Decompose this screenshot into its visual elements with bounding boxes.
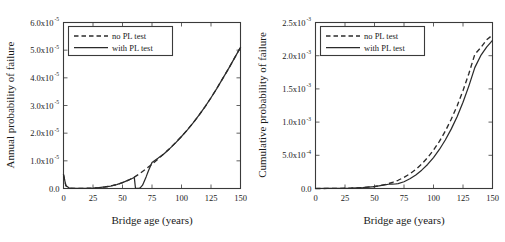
l-ytick-label: 3.0x10-5 xyxy=(30,99,59,111)
svg-text:-5: -5 xyxy=(55,16,60,22)
chart-panel-left: 0.01.0x10-52.0x10-53.0x10-54.0x10-55.0x1… xyxy=(0,0,252,242)
r-xtick-label: 100 xyxy=(427,193,440,203)
svg-text:-4: -4 xyxy=(307,149,312,155)
l-ytick-label: 1.0x10-5 xyxy=(30,154,59,166)
r-xtick-label: 150 xyxy=(486,193,499,203)
svg-text:-5: -5 xyxy=(55,127,60,133)
left-ytick-labels: 0.01.0x10-52.0x10-53.0x10-54.0x10-55.0x1… xyxy=(30,16,59,194)
l-xtick-label: 0 xyxy=(61,193,65,203)
svg-text:0.0: 0.0 xyxy=(301,184,312,194)
svg-text:-3: -3 xyxy=(307,16,312,22)
svg-text:3.0x10: 3.0x10 xyxy=(30,101,53,111)
svg-text:5.0x10: 5.0x10 xyxy=(282,150,305,160)
svg-text:1.5x10: 1.5x10 xyxy=(282,84,305,94)
l-ytick-label: 6.0x10-5 xyxy=(30,16,59,28)
svg-text:2.0x10: 2.0x10 xyxy=(30,128,53,138)
r-ytick-label: 2.0x10-3 xyxy=(282,49,311,61)
l-xtick-label: 100 xyxy=(175,193,188,203)
left-x-axis-title: Bridge age (years) xyxy=(111,214,193,227)
r-xtick-label: 0 xyxy=(313,193,317,203)
svg-text:4.0x10: 4.0x10 xyxy=(30,73,53,83)
figure-container: 0.01.0x10-52.0x10-53.0x10-54.0x10-55.0x1… xyxy=(0,0,505,242)
l-xtick-label: 25 xyxy=(89,193,98,203)
svg-text:0.0: 0.0 xyxy=(49,184,60,194)
left-xtick-labels: 0255075100125150 xyxy=(61,193,247,203)
right-y-axis-title: Cumulative probability of failure xyxy=(256,32,268,178)
l-ytick-label: 2.0x10-5 xyxy=(30,127,59,139)
right-ytick-labels: 0.05.0x10-41.0x10-31.5x10-32.0x10-32.5x1… xyxy=(282,16,311,194)
l-xtick-label: 50 xyxy=(118,193,127,203)
svg-text:1.0x10: 1.0x10 xyxy=(282,117,305,127)
svg-text:2.0x10: 2.0x10 xyxy=(282,51,305,61)
r-ytick-label: 1.5x10-3 xyxy=(282,82,311,94)
right-xtick-labels: 0255075100125150 xyxy=(313,193,499,203)
svg-text:-5: -5 xyxy=(55,99,60,105)
l-xtick-label: 150 xyxy=(234,193,247,203)
svg-text:-5: -5 xyxy=(55,71,60,77)
svg-text:-3: -3 xyxy=(307,82,312,88)
l-xtick-label: 75 xyxy=(148,193,157,203)
l-ytick-label: 0.0 xyxy=(49,184,60,194)
chart-panel-right: 0.05.0x10-41.0x10-31.5x10-32.0x10-32.5x1… xyxy=(252,0,504,242)
svg-text:6.0x10: 6.0x10 xyxy=(30,18,53,28)
right-x-axis-title: Bridge age (years) xyxy=(363,214,445,227)
l-xtick-label: 125 xyxy=(205,193,218,203)
left-legend-label-no-pl-test: no PL test xyxy=(112,31,147,41)
r-ytick-label: 1.0x10-3 xyxy=(282,116,311,128)
left-y-axis-title: Annual probability of failure xyxy=(4,42,16,169)
r-xtick-label: 75 xyxy=(400,193,409,203)
svg-text:-5: -5 xyxy=(55,44,60,50)
svg-text:-3: -3 xyxy=(307,116,312,122)
r-xtick-label: 50 xyxy=(370,193,379,203)
l-ytick-label: 4.0x10-5 xyxy=(30,71,59,83)
left-legend: no PL test with PL test xyxy=(69,27,173,56)
right-legend-label-with-pl-test: with PL test xyxy=(364,43,405,53)
svg-text:1.0x10: 1.0x10 xyxy=(30,156,53,166)
svg-text:2.5x10: 2.5x10 xyxy=(282,18,305,28)
r-ytick-label: 2.5x10-3 xyxy=(282,16,311,28)
l-ytick-label: 5.0x10-5 xyxy=(30,44,59,56)
right-chart-svg: 0.05.0x10-41.0x10-31.5x10-32.0x10-32.5x1… xyxy=(252,0,504,242)
r-xtick-label: 125 xyxy=(457,193,470,203)
left-chart-svg: 0.01.0x10-52.0x10-53.0x10-54.0x10-55.0x1… xyxy=(0,0,252,242)
r-ytick-label: 0.0 xyxy=(301,184,312,194)
left-legend-label-with-pl-test: with PL test xyxy=(112,43,153,53)
right-legend-label-no-pl-test: no PL test xyxy=(364,31,399,41)
r-xtick-label: 25 xyxy=(341,193,350,203)
r-ytick-label: 5.0x10-4 xyxy=(282,149,311,161)
svg-text:-5: -5 xyxy=(55,154,60,160)
svg-text:5.0x10: 5.0x10 xyxy=(30,45,53,55)
svg-text:-3: -3 xyxy=(307,49,312,55)
right-legend: no PL test with PL test xyxy=(321,27,425,56)
